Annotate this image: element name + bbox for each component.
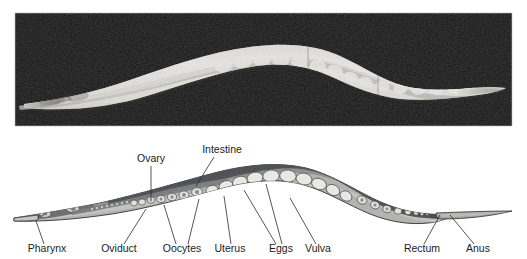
leader-oocytes-b — [188, 199, 199, 244]
label-intestine: Intestine — [202, 143, 242, 155]
label-anus: Anus — [466, 242, 490, 254]
micrograph-panel — [15, 13, 512, 126]
label-vulva: Vulva — [305, 242, 331, 254]
schematic-eggs-lower — [215, 187, 286, 202]
leader-oviduct — [124, 209, 146, 244]
label-ovary: Ovary — [137, 152, 166, 164]
leader-pharynx — [36, 221, 44, 244]
figure-labels: Ovary Intestine Pharynx Oviduct Oocytes … — [28, 143, 490, 254]
leader-eggs-a — [244, 190, 276, 244]
label-rectum: Rectum — [404, 242, 440, 254]
c-elegans-anatomy-figure: Ovary Intestine Pharynx Oviduct Oocytes … — [0, 0, 527, 259]
leader-eggs-b — [266, 184, 282, 244]
label-oviduct: Oviduct — [101, 242, 137, 254]
label-oocytes: Oocytes — [163, 242, 202, 254]
leader-anus — [450, 215, 474, 244]
label-uterus: Uterus — [215, 242, 246, 254]
schematic-panel — [14, 161, 512, 224]
leader-uterus — [224, 196, 231, 244]
schematic-vulva — [286, 193, 292, 199]
figure-canvas: Ovary Intestine Pharynx Oviduct Oocytes … — [0, 0, 527, 259]
label-pharynx: Pharynx — [28, 242, 67, 254]
label-eggs: Eggs — [269, 242, 293, 254]
leader-vulva — [290, 198, 316, 244]
leader-oocytes-a — [164, 205, 176, 244]
